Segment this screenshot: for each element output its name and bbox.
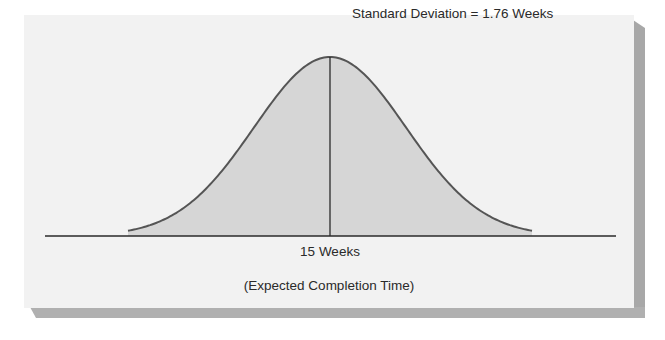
standard-deviation-label: Standard Deviation = 1.76 Weeks [352,6,553,21]
mean-label: 15 Weeks [300,244,360,259]
axis-label: (Expected Completion Time) [244,278,414,293]
